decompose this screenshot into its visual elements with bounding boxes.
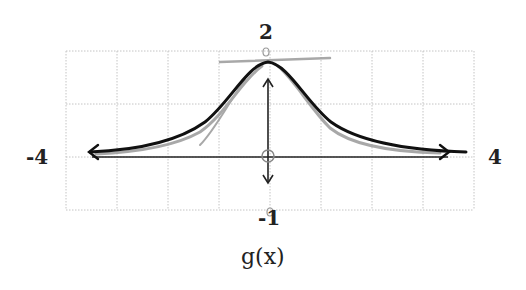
x-max-label: 4 (488, 147, 502, 167)
y-min-label: -1 (258, 208, 280, 228)
grid (66, 51, 474, 210)
vertical-arrow (263, 79, 273, 183)
y-max-label: 2 (259, 22, 273, 42)
curve-g (90, 62, 466, 152)
x-min-label: -4 (26, 147, 48, 167)
peak-circle-icon (263, 48, 269, 56)
function-caption: g(x) (241, 244, 285, 269)
